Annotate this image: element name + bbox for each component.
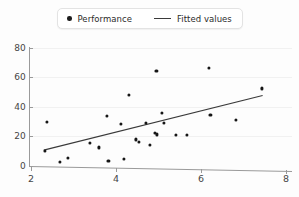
data-point bbox=[97, 146, 100, 149]
data-point bbox=[66, 156, 69, 159]
data-point bbox=[209, 114, 212, 117]
data-point bbox=[234, 118, 237, 121]
data-point bbox=[160, 111, 163, 114]
data-point bbox=[155, 70, 158, 73]
data-point bbox=[120, 122, 123, 125]
data-point bbox=[185, 134, 188, 137]
data-point bbox=[58, 160, 61, 163]
data-point bbox=[261, 87, 264, 90]
data-point bbox=[107, 160, 110, 163]
data-point bbox=[43, 149, 46, 152]
data-point bbox=[174, 133, 177, 136]
data-points-layer bbox=[0, 0, 299, 197]
scatter-chart: Performance Fitted values 80 60 40 20 0 bbox=[0, 0, 299, 197]
data-point bbox=[148, 143, 151, 146]
data-point bbox=[127, 93, 130, 96]
data-point bbox=[155, 133, 158, 136]
data-point bbox=[207, 66, 210, 69]
data-point bbox=[88, 141, 91, 144]
data-point bbox=[46, 120, 49, 123]
data-point bbox=[122, 158, 125, 161]
plot-area: 80 60 40 20 0 2 4 6 8 bbox=[0, 0, 299, 197]
data-point bbox=[162, 121, 165, 124]
data-point bbox=[144, 121, 147, 124]
data-point bbox=[105, 114, 108, 117]
data-point bbox=[137, 140, 140, 143]
